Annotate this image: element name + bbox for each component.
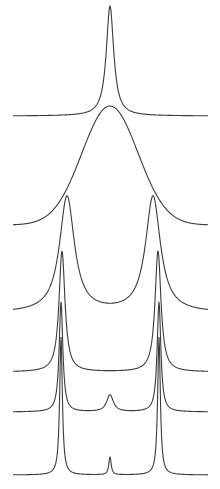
curve-doublet-with-center-bump: [13, 302, 208, 412]
spectral-line-diagram: [0, 0, 220, 489]
curve-broad-band: [13, 106, 208, 225]
curve-doublet-medium: [13, 251, 208, 371]
curve-single-narrow-peak: [13, 6, 208, 116]
line-shape-stack: [0, 0, 220, 489]
curve-doublet-broad: [13, 196, 208, 310]
curve-triplet-sharp: [13, 337, 208, 475]
